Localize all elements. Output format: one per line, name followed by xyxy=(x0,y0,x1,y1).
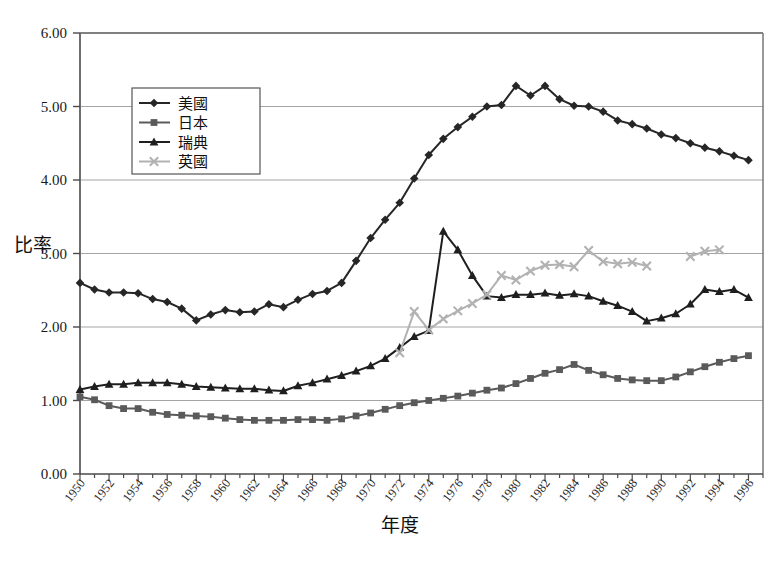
data-point-marker xyxy=(250,307,259,316)
x-tick-label: 1996 xyxy=(730,476,756,504)
data-point-marker xyxy=(323,287,332,296)
series-4 xyxy=(396,246,724,357)
data-point-marker xyxy=(701,363,708,370)
x-tick-label: 1958 xyxy=(178,476,204,504)
x-tick-label: 1972 xyxy=(381,476,407,504)
series-line xyxy=(400,251,647,353)
data-point-marker xyxy=(468,299,476,307)
data-point-marker xyxy=(222,415,229,422)
data-point-marker xyxy=(163,298,172,307)
data-point-marker xyxy=(266,417,273,424)
data-point-marker xyxy=(701,143,710,152)
data-point-marker xyxy=(193,413,200,420)
chart-figure: 0.001.002.003.004.005.006.00195019521954… xyxy=(0,0,779,561)
x-tick-label: 1976 xyxy=(439,476,465,504)
data-point-marker xyxy=(454,307,462,315)
data-point-marker xyxy=(672,374,679,381)
x-tick-label: 1956 xyxy=(149,476,175,504)
x-tick-label: 1970 xyxy=(352,476,378,504)
data-point-marker xyxy=(324,417,331,424)
data-point-marker xyxy=(584,102,593,111)
data-point-marker xyxy=(164,411,171,418)
data-point-marker xyxy=(657,130,666,139)
legend-label: 瑞典 xyxy=(178,135,208,151)
data-point-marker xyxy=(642,124,651,133)
data-point-marker xyxy=(599,107,608,116)
x-tick-label: 1982 xyxy=(527,476,553,504)
data-point-marker xyxy=(527,375,534,382)
data-point-marker xyxy=(294,296,303,305)
legend-label: 英國 xyxy=(178,153,208,170)
data-point-marker xyxy=(308,290,317,299)
data-point-marker xyxy=(178,412,185,419)
y-tick-label: 4.00 xyxy=(41,172,67,188)
data-point-marker xyxy=(309,416,316,423)
data-point-marker xyxy=(526,267,534,275)
series-2 xyxy=(77,352,752,423)
x-tick-label: 1978 xyxy=(469,476,495,504)
data-point-marker xyxy=(745,352,752,359)
data-point-marker xyxy=(382,406,389,413)
x-tick-label: 1960 xyxy=(207,476,233,504)
data-point-marker xyxy=(658,377,665,384)
legend-label: 美國 xyxy=(178,96,208,112)
data-point-marker xyxy=(614,375,621,382)
data-point-marker xyxy=(498,385,505,392)
x-tick-label: 1968 xyxy=(323,476,349,504)
data-point-marker xyxy=(77,393,84,400)
data-point-marker xyxy=(279,303,288,312)
data-point-marker xyxy=(585,367,592,374)
chart-canvas: 0.001.002.003.004.005.006.00195019521954… xyxy=(0,0,779,561)
data-point-marker xyxy=(731,355,738,362)
data-point-marker xyxy=(600,371,607,378)
data-point-marker xyxy=(119,288,128,297)
data-point-marker xyxy=(700,285,709,293)
data-point-marker xyxy=(221,306,230,315)
y-tick-label: 1.00 xyxy=(41,393,67,409)
data-point-marker xyxy=(643,377,650,384)
legend-label: 日本 xyxy=(178,115,208,131)
data-point-marker xyxy=(76,279,85,288)
y-tick-label: 5.00 xyxy=(41,99,67,115)
data-point-marker xyxy=(280,417,287,424)
data-point-marker xyxy=(454,393,461,400)
data-point-marker xyxy=(730,151,739,160)
data-point-marker xyxy=(236,308,245,317)
data-point-marker xyxy=(120,405,127,412)
data-point-marker xyxy=(628,120,637,129)
data-point-marker xyxy=(338,415,345,422)
data-point-marker xyxy=(265,300,274,309)
data-point-marker xyxy=(556,366,563,373)
data-point-marker xyxy=(686,139,695,148)
data-point-marker xyxy=(134,289,143,298)
x-axis-title: 年度 xyxy=(381,515,419,536)
x-tick-label: 1992 xyxy=(672,476,698,504)
data-point-marker xyxy=(483,387,490,394)
y-tick-label: 0.00 xyxy=(41,466,67,482)
data-point-marker xyxy=(207,413,214,420)
y-tick-label: 6.00 xyxy=(41,25,67,41)
x-tick-label: 1954 xyxy=(120,476,147,505)
data-point-marker xyxy=(542,370,549,377)
data-point-marker xyxy=(295,416,302,423)
data-point-marker xyxy=(570,101,579,110)
data-point-marker xyxy=(106,402,113,409)
data-point-marker xyxy=(629,377,636,384)
x-tick-label: 1984 xyxy=(556,476,583,505)
data-point-marker xyxy=(90,285,99,294)
data-point-marker xyxy=(513,380,520,387)
data-point-marker xyxy=(105,288,114,297)
data-point-marker xyxy=(135,405,142,412)
x-tick-label: 1980 xyxy=(498,476,524,504)
data-point-marker xyxy=(716,359,723,366)
data-point-marker xyxy=(440,395,447,402)
data-point-marker xyxy=(251,417,258,424)
data-point-marker xyxy=(149,409,156,416)
x-tick-label: 1994 xyxy=(701,476,728,505)
data-point-marker xyxy=(613,116,622,125)
data-point-marker xyxy=(439,315,447,323)
data-point-marker xyxy=(367,410,374,417)
data-point-marker xyxy=(715,147,724,156)
data-point-marker xyxy=(425,397,432,404)
data-point-marker xyxy=(91,396,98,403)
